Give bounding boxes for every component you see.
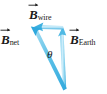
- vector-arrow-overbar-icon: [69, 26, 80, 32]
- vector-b-wire-shaft: [41, 25, 63, 29]
- vector-symbol-b-net: B: [1, 32, 10, 47]
- vector-arrow-overbar-icon: [28, 1, 39, 7]
- vector-symbol-b-earth: B: [70, 32, 79, 47]
- vector-symbol-b-wire-letter: B: [29, 7, 38, 22]
- vector-label-b-net: Bnet: [1, 31, 19, 47]
- vector-diagram-canvas: [0, 0, 107, 94]
- vector-label-b-earth: BEarth: [70, 31, 96, 47]
- vector-label-b-wire: Bwire: [29, 6, 52, 22]
- vector-subscript-b-earth: Earth: [79, 38, 96, 47]
- vector-symbol-b-earth-letter: B: [70, 32, 79, 47]
- vector-subscript-b-wire: wire: [38, 13, 52, 22]
- vector-subscript-b-net: net: [10, 38, 19, 47]
- vector-diagram-figure: Bwire Bnet BEarth θ: [0, 0, 107, 94]
- vector-symbol-b-wire: B: [29, 7, 38, 22]
- vector-arrow-overbar-icon: [0, 26, 11, 32]
- vector-symbol-b-net-letter: B: [1, 32, 10, 47]
- angle-label-theta: θ: [47, 48, 52, 60]
